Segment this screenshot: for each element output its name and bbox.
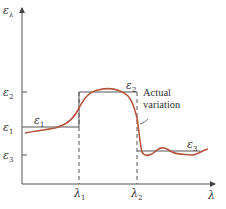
y-axis-label: ελ <box>3 4 14 19</box>
y-tick-label-eps2: ε2 <box>3 86 13 101</box>
step-label-eps3: ε3 <box>187 138 197 153</box>
x-tick-label-lambda2: λ2 <box>130 187 142 202</box>
y-tick-label-eps3: ε3 <box>3 149 13 164</box>
actual-variation-curve <box>25 89 208 156</box>
annotation-line2: variation <box>143 99 181 110</box>
x-tick-label-lambda1: λ1 <box>73 187 85 202</box>
annotation-line1: Actual <box>143 87 171 98</box>
step-label-eps2: ε2 <box>126 79 136 94</box>
y-tick-label-eps1: ε1 <box>3 121 13 136</box>
x-axis-label: λ <box>207 189 215 202</box>
emissivity-diagram: ελ λ ε2 ε1 ε3 λ1 λ2 ε1 ε2 ε3 Actual vari… <box>0 0 226 209</box>
step-label-eps1: ε1 <box>34 114 44 129</box>
annotation-leader <box>140 119 148 124</box>
